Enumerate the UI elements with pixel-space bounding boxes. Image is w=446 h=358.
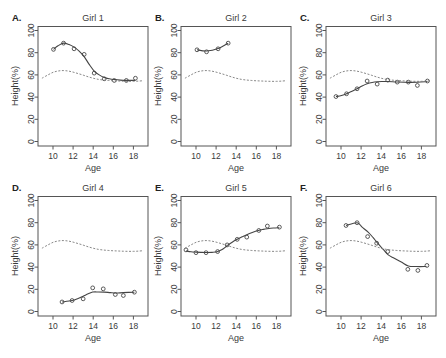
figure: A. Girl 1 Height(%) Age 0204060801001012… [0,0,446,358]
y-tick-label: 20 [314,114,324,124]
x-tick-label: 10 [191,321,201,331]
x-tick-label: 18 [272,321,282,331]
y-tick-label: 80 [26,218,36,228]
fitted-curve [346,223,426,267]
y-tick-label: 60 [26,70,36,80]
x-tick-label: 12 [211,321,221,331]
panel-girl-1: A. Girl 1 Height(%) Age 0204060801001012… [0,0,150,175]
y-tick-label: 100 [314,23,324,37]
plot-frame [326,197,436,317]
y-tick-label: 100 [26,23,36,37]
data-point [121,294,125,298]
y-tick-label: 60 [314,240,324,250]
observed-points [52,41,138,82]
y-tick-label: 60 [169,240,179,250]
fitted-curve [186,228,279,253]
reference-curve [185,241,287,252]
data-point [415,84,419,88]
x-tick-label: 16 [252,151,262,161]
y-tick-label: 100 [169,23,179,37]
x-tick-label: 14 [88,321,98,331]
x-tick-label: 16 [397,151,407,161]
x-tick-label: 16 [397,321,407,331]
y-tick-label: 40 [314,262,324,272]
x-tick-label: 14 [231,321,241,331]
x-tick-label: 10 [191,151,201,161]
x-tick-label: 14 [88,151,98,161]
x-tick-label: 10 [48,321,58,331]
y-tick-label: 80 [314,218,324,228]
observed-points [195,41,230,53]
fitted-curve [197,43,228,51]
y-tick-label: 100 [314,193,324,207]
panel-girl-6: F. Girl 6 Height(%) Age 0204060801001012… [288,170,438,345]
fitted-curve [336,82,427,97]
data-point [278,225,282,229]
x-tick-label: 18 [417,151,427,161]
data-point [91,286,95,290]
reference-curve [330,71,432,82]
data-point [366,235,370,239]
x-tick-label: 18 [129,151,139,161]
plot-frame [38,27,148,147]
data-point [265,224,269,228]
x-tick-label: 18 [272,151,282,161]
x-tick-label: 12 [356,321,366,331]
x-tick-label: 10 [336,321,346,331]
y-tick-label: 80 [26,48,36,58]
x-tick-label: 18 [417,321,427,331]
plot-frame [181,27,291,147]
y-tick-label: 20 [26,284,36,294]
x-tick-label: 16 [109,151,119,161]
y-tick-label: 40 [169,262,179,272]
x-tick-label: 16 [252,321,262,331]
x-tick-label: 16 [109,321,119,331]
panel-girl-3: C. Girl 3 Height(%) Age 0204060801001012… [288,0,438,175]
y-tick-label: 0 [26,309,36,314]
y-tick-label: 20 [169,284,179,294]
y-tick-label: 80 [169,218,179,228]
plot-area: 0204060801001012141618 [288,0,438,175]
x-tick-label: 12 [211,151,221,161]
y-tick-label: 40 [26,92,36,102]
y-tick-label: 60 [314,70,324,80]
data-point [416,269,420,273]
x-tick-label: 12 [68,321,78,331]
plot-area: 0204060801001012141618 [143,0,293,175]
reference-curve [42,241,144,252]
y-tick-label: 0 [314,309,324,314]
y-tick-label: 80 [169,48,179,58]
observed-points [344,221,429,273]
y-tick-label: 0 [26,139,36,144]
x-tick-label: 12 [68,151,78,161]
y-tick-label: 40 [314,92,324,102]
x-tick-label: 14 [376,151,386,161]
y-tick-label: 60 [26,240,36,250]
data-point [81,297,85,301]
x-tick-label: 12 [356,151,366,161]
x-tick-label: 10 [336,151,346,161]
x-tick-label: 18 [129,321,139,331]
plot-frame [181,197,291,317]
panel-girl-4: D. Girl 4 Height(%) Age 0204060801001012… [0,170,150,345]
y-tick-label: 20 [169,114,179,124]
panel-girl-5: E. Girl 5 Height(%) Age 0204060801001012… [143,170,293,345]
plot-area: 0204060801001012141618 [0,170,150,345]
y-tick-label: 60 [169,70,179,80]
plot-area: 0204060801001012141618 [288,170,438,345]
y-tick-label: 0 [169,139,179,144]
plot-area: 0204060801001012141618 [0,0,150,175]
y-tick-label: 20 [26,114,36,124]
plot-area: 0204060801001012141618 [143,170,293,345]
data-point [365,79,369,83]
data-point [375,82,379,86]
reference-curve [185,71,287,82]
y-tick-label: 20 [314,284,324,294]
y-tick-label: 0 [169,309,179,314]
data-point [406,267,410,271]
y-tick-label: 40 [169,92,179,102]
data-point [134,76,138,80]
y-tick-label: 80 [314,48,324,58]
x-tick-label: 14 [231,151,241,161]
x-tick-label: 14 [376,321,386,331]
